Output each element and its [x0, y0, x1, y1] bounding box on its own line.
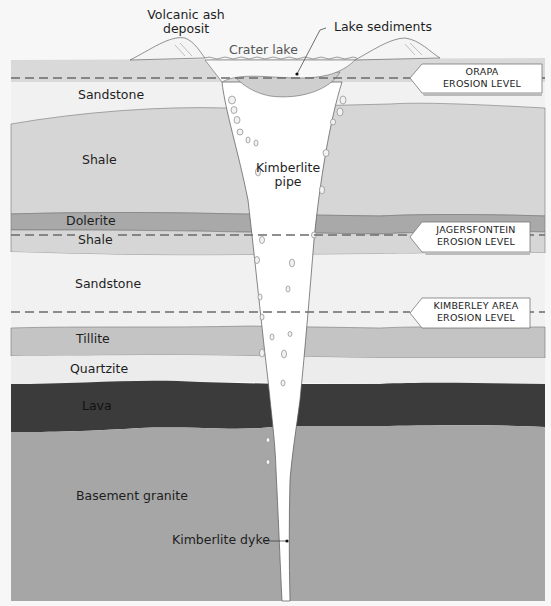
- leader-dot-dyke: [285, 539, 288, 542]
- label-basement-granite: Basement granite: [76, 489, 188, 503]
- label-kimberlite-dyke: Kimberlite dyke: [172, 533, 270, 547]
- label-quartzite: Quartzite: [70, 362, 128, 376]
- erosion-orapa-line2: EROSION LEVEL: [422, 78, 542, 90]
- label-dolerite: Dolerite: [66, 214, 116, 228]
- erosion-kimberley-line2: EROSION LEVEL: [422, 312, 530, 324]
- ash-cone-left: [130, 38, 205, 60]
- erosion-label-orapa: ORAPA EROSION LEVEL: [422, 66, 542, 91]
- erosion-label-kimberley: KIMBERLEY AREA EROSION LEVEL: [422, 300, 530, 325]
- label-lake-sediments: Lake sediments: [334, 20, 432, 34]
- label-volcanic-ash: Volcanic ash deposit: [136, 8, 236, 37]
- label-lava: Lava: [82, 399, 112, 413]
- ash-cone-right: [355, 38, 440, 60]
- erosion-orapa-line1: ORAPA: [422, 66, 542, 78]
- label-pipe-line2: pipe: [250, 175, 326, 189]
- label-shale-upper: Shale: [82, 153, 117, 167]
- label-crater-lake: Crater lake: [229, 43, 298, 57]
- label-kimberlite-pipe: Kimberlite pipe: [250, 161, 326, 190]
- label-sandstone-upper: Sandstone: [78, 88, 144, 102]
- label-shale-lower: Shale: [78, 233, 113, 247]
- erosion-label-jagersfontein: JAGERSFONTEIN EROSION LEVEL: [422, 224, 530, 249]
- label-tillite: Tillite: [76, 332, 110, 346]
- erosion-kimberley-line1: KIMBERLEY AREA: [422, 300, 530, 312]
- erosion-jagersfontein-line2: EROSION LEVEL: [422, 236, 530, 248]
- label-volcanic-ash-line2: deposit: [136, 22, 236, 36]
- leader-dot-lake-sediments: [295, 72, 298, 75]
- label-pipe-line1: Kimberlite: [250, 161, 326, 175]
- label-sandstone-lower: Sandstone: [75, 277, 141, 291]
- label-volcanic-ash-line1: Volcanic ash: [136, 8, 236, 22]
- erosion-jagersfontein-line1: JAGERSFONTEIN: [422, 224, 530, 236]
